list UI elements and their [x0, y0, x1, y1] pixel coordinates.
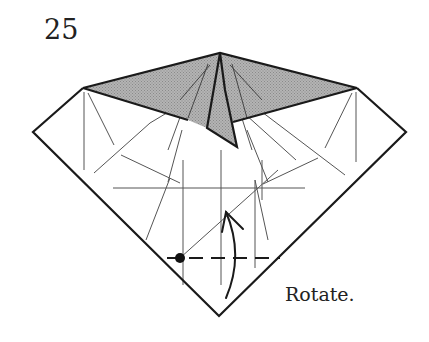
step-instruction: Rotate.	[285, 283, 355, 305]
dot-reference-icon	[175, 253, 185, 263]
origami-diagram	[0, 0, 429, 342]
